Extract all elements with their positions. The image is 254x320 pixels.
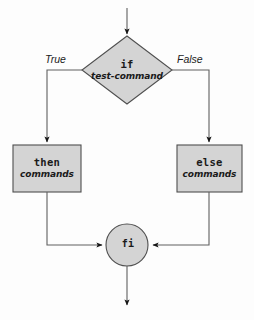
flowchart-graphics [0,0,254,320]
else-box-shape [177,145,242,192]
flowchart-canvas: if test-command then commands else comma… [0,0,254,320]
edge-true [47,70,82,142]
edge-false [172,70,209,142]
decision-diamond-shape [82,36,172,104]
fi-circle-shape [106,224,148,266]
edge-else-to-fi [153,192,209,245]
edge-then-to-fi [47,192,102,245]
then-box-shape [13,145,81,192]
